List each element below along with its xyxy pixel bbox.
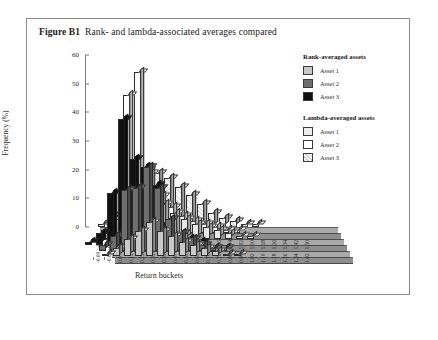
x-axis-tick-label: 1.02 : 1.10 [249, 240, 255, 263]
y-axis-tick-label: 40 [72, 108, 85, 116]
legend-item[interactable]: Asset 2 [303, 77, 407, 89]
x-axis-tick-mark [93, 257, 94, 260]
chart-bar [98, 224, 105, 227]
legend-item-label: Asset 3 [320, 154, 339, 161]
bar-side-face [214, 207, 218, 224]
x-axis-tick-mark [115, 257, 116, 260]
x-axis-tick-mark [247, 257, 248, 260]
chart-bar [214, 230, 221, 239]
chart-bar [157, 231, 164, 257]
legend-group: Rank-averaged assetsAsset 1Asset 2Asset … [303, 53, 407, 102]
x-axis-tick-mark [291, 257, 292, 260]
bar-side-face [153, 217, 157, 255]
chart-bar [190, 245, 197, 256]
bar-side-face [164, 225, 168, 254]
chart-bar [223, 254, 230, 257]
chart-bar [124, 239, 131, 256]
legend-group-title: Rank-averaged assets [303, 53, 407, 60]
y-axis-tick-label: 0 [76, 223, 86, 231]
x-axis-tick-mark [148, 257, 149, 260]
x-axis-tick-mark [159, 257, 160, 260]
legend-item[interactable]: Asset 3 [303, 90, 407, 102]
chart-bar [102, 254, 109, 257]
y-axis-tick-label: 60 [72, 51, 85, 59]
chart-bar [234, 254, 241, 257]
legend-item[interactable]: Asset 3 [303, 151, 407, 163]
legend-swatch [303, 127, 313, 136]
chart-axes: 0102030405060 [85, 55, 317, 227]
y-axis-tick-label: 30 [72, 137, 85, 145]
x-axis-tick-mark [302, 257, 303, 260]
legend-swatch [303, 153, 313, 162]
bar-side-face [175, 231, 179, 254]
chart-bar [212, 251, 219, 257]
x-axis-tick-mark [192, 257, 193, 260]
x-axis-tick-label: 1.34 : 1.42 [293, 240, 299, 263]
legend-item-label: Asset 1 [320, 128, 339, 135]
y-axis-label: Frequency (%) [1, 111, 10, 156]
x-axis-label: Return buckets [135, 271, 183, 280]
chart-bar [168, 236, 175, 256]
chart-bar [201, 248, 208, 257]
legend-swatch [303, 140, 313, 149]
x-axis-tick-mark [214, 257, 215, 260]
figure-label: Figure B1 [39, 27, 80, 37]
legend-group: Lambda-averaged assetsAsset 1Asset 2Asse… [303, 114, 407, 163]
x-axis-tick-label: 1.10 : 1.18 [260, 240, 266, 263]
x-axis-tick-mark [126, 257, 127, 260]
legend-swatch [303, 79, 313, 88]
chart-legend: Rank-averaged assetsAsset 1Asset 2Asset … [303, 53, 407, 175]
chart-bar [135, 231, 142, 257]
x-axis-tick-mark [258, 257, 259, 260]
x-axis-tick-mark [225, 257, 226, 260]
legend-item-label: Asset 3 [320, 93, 339, 100]
x-axis-tick-mark [203, 257, 204, 260]
x-axis-tick-label: 1.18 : 1.26 [271, 240, 277, 263]
x-axis-tick-mark [170, 257, 171, 260]
figure-container: Figure B1Rank- and lambda-associated ave… [26, 18, 410, 295]
y-axis-tick-label: 50 [72, 80, 85, 88]
figure-caption: Figure B1Rank- and lambda-associated ave… [39, 27, 277, 37]
bar-side-face [236, 216, 240, 225]
chart-bar [85, 242, 92, 245]
x-axis-tick-mark [104, 257, 105, 260]
legend-item[interactable]: Asset 2 [303, 138, 407, 150]
chart-bars [85, 55, 317, 227]
chart-bar [236, 236, 243, 239]
legend-item[interactable]: Asset 1 [303, 64, 407, 76]
legend-item-label: Asset 1 [320, 67, 339, 74]
chart-bar [179, 242, 186, 256]
chart-bar [99, 245, 106, 251]
legend-item[interactable]: Asset 1 [303, 125, 407, 137]
legend-group-title: Lambda-averaged assets [303, 114, 407, 121]
legend-swatch [303, 66, 313, 75]
figure-caption-text: Rank- and lambda-associated averages com… [85, 27, 277, 37]
x-axis-tick-mark [269, 257, 270, 260]
x-axis-tick-mark [181, 257, 182, 260]
x-axis-tick-mark [236, 257, 237, 260]
x-axis-tick-label: 1.42 : 1.50 [304, 240, 310, 263]
legend-swatch [303, 92, 313, 101]
x-axis-tick-mark [137, 257, 138, 260]
chart-bar [225, 233, 232, 239]
y-axis-tick-label: 20 [72, 166, 85, 174]
legend-item-label: Asset 2 [320, 141, 339, 148]
x-axis-tick-label: 1.26 : 1.34 [282, 240, 288, 263]
bar-side-face [142, 225, 146, 254]
x-axis-tick-mark [280, 257, 281, 260]
legend-item-label: Asset 2 [320, 80, 339, 87]
y-axis-tick-label: 10 [72, 194, 85, 202]
